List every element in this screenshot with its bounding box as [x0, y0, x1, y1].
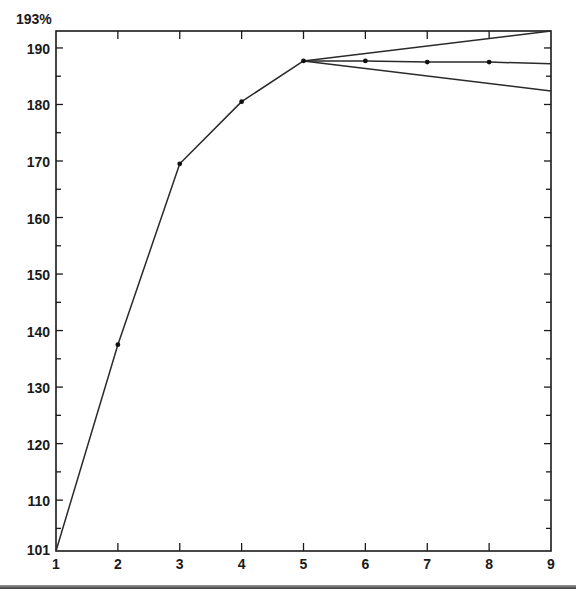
- y-tick-label: 150: [27, 267, 51, 283]
- x-tick-label: 7: [423, 556, 431, 572]
- x-tick-label: 1: [52, 556, 60, 572]
- data-point: [487, 60, 492, 65]
- axis-ticks: [56, 31, 551, 551]
- x-tick-label: 6: [361, 556, 369, 572]
- data-point: [115, 342, 120, 347]
- x-tick-label: 5: [300, 556, 308, 572]
- data-point: [177, 161, 182, 166]
- x-tick-label: 9: [547, 556, 555, 572]
- y-tick-label: 170: [27, 154, 51, 170]
- x-tick-label: 3: [176, 556, 184, 572]
- data-point: [301, 59, 306, 64]
- y-tick-label: 130: [27, 380, 51, 396]
- tick-labels: 1234567891011101201301401501601701801901…: [16, 11, 555, 572]
- chart-axes: [56, 31, 551, 551]
- data-point: [363, 59, 368, 64]
- y-top-label: 193%: [16, 11, 52, 27]
- line-chart: 1234567891011101201301401501601701801901…: [0, 0, 576, 589]
- data-points: [115, 59, 491, 348]
- data-point: [239, 99, 244, 104]
- data-lines: [56, 31, 551, 551]
- y-tick-label: 101: [27, 542, 51, 558]
- y-tick-label: 180: [27, 97, 51, 113]
- y-tick-label: 160: [27, 211, 51, 227]
- series-main: [56, 61, 551, 551]
- x-tick-label: 8: [485, 556, 493, 572]
- data-point: [425, 60, 430, 65]
- series-lower-projection: [304, 61, 552, 91]
- y-tick-label: 110: [27, 493, 50, 509]
- y-tick-label: 190: [27, 41, 51, 57]
- x-tick-label: 4: [238, 556, 246, 572]
- y-tick-label: 120: [27, 437, 51, 453]
- bottom-border-bar: [0, 585, 576, 589]
- plot-frame: [56, 31, 551, 551]
- y-tick-label: 140: [27, 324, 51, 340]
- x-tick-label: 2: [114, 556, 122, 572]
